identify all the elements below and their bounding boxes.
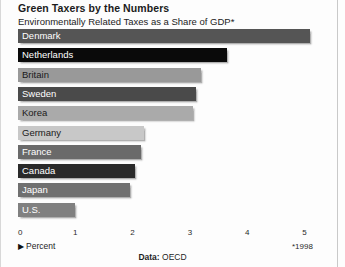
bar-row: Britain (18, 68, 201, 82)
bar-row: Sweden (18, 87, 196, 101)
source-key: Data: (138, 252, 159, 262)
bar-label-canada: Canada (22, 164, 55, 178)
chart-subtitle: Environmentally Related Taxes as a Share… (18, 16, 328, 28)
chart-figure: Green Taxers by the Numbers Environmenta… (0, 0, 345, 267)
bar-row: Denmark (18, 29, 310, 43)
bar-row: Netherlands (18, 48, 227, 62)
bar-label-netherlands: Netherlands (22, 48, 73, 62)
bar-row: France (18, 145, 141, 159)
bar-row: Japan (18, 183, 130, 197)
bar-label-denmark: Denmark (22, 29, 61, 43)
bar-label-us: U.S. (22, 203, 40, 217)
x-tick-5: 5 (302, 228, 306, 238)
bar-label-korea: Korea (22, 106, 47, 120)
x-tick-4: 4 (245, 228, 249, 238)
x-tick-1: 1 (73, 228, 77, 238)
x-tick-3: 3 (188, 228, 192, 238)
bar-label-japan: Japan (22, 183, 48, 197)
triangle-right-icon: ▶ (18, 242, 24, 251)
x-axis-unit-label: ▶Percent (18, 241, 55, 252)
x-tick-2: 2 (130, 228, 134, 238)
x-axis: 012345 (0, 228, 345, 240)
source-line: Data: OECD (0, 252, 325, 263)
bar-label-france: France (22, 145, 52, 159)
bar-row: Canada (18, 164, 135, 178)
percent-label: Percent (26, 241, 55, 251)
chart-header: Green Taxers by the Numbers Environmenta… (18, 2, 328, 28)
bar-label-germany: Germany (22, 126, 61, 140)
bar-label-britain: Britain (22, 68, 49, 82)
footnote: *1998 (292, 241, 313, 252)
page-title: Green Taxers by the Numbers (18, 2, 328, 15)
bar-row: Korea (18, 106, 193, 120)
source-value: OECD (162, 252, 187, 262)
bar-denmark (18, 29, 310, 43)
bar-row: Germany (18, 126, 144, 140)
bar-label-sweden: Sweden (22, 87, 56, 101)
bar-row: U.S. (18, 203, 75, 217)
bar-plot-area: DenmarkNetherlandsBritainSwedenKoreaGerm… (0, 28, 345, 228)
x-tick-0: 0 (18, 228, 22, 238)
